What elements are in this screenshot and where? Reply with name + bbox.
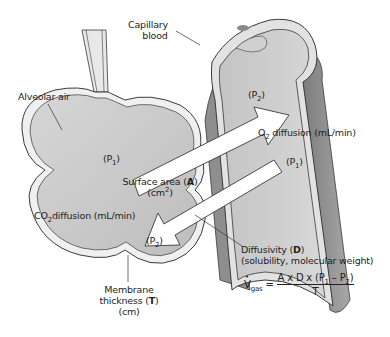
label-line: blood	[128, 30, 167, 41]
label-text: (cm)	[118, 306, 139, 317]
fick-equation: Vgas = A x D x (P1 – P2) T	[244, 272, 354, 297]
label-text: )	[169, 187, 173, 198]
label-text: (P	[286, 156, 295, 167]
label-text: (P	[146, 235, 155, 246]
capillary-leader-line	[176, 31, 200, 45]
equation-sub: gas	[251, 285, 263, 293]
label-text: (solubility, molecular weight)	[241, 255, 373, 266]
label-text: )	[194, 176, 198, 187]
airway	[82, 30, 108, 92]
o2-p1-label: (P1)	[103, 153, 120, 164]
equation-equals: =	[262, 279, 276, 290]
equation-denominator: T	[277, 285, 355, 297]
label-text: (P	[248, 89, 257, 100]
equation-numerator: A x D x (P1 – P2)	[277, 272, 355, 285]
label-text: )	[261, 89, 265, 100]
label-text: )	[159, 235, 163, 246]
label-line: Capillary	[128, 19, 168, 30]
nucleus-icon	[237, 25, 249, 31]
label-text: CO	[34, 210, 48, 221]
label-text: (cm	[147, 187, 165, 198]
o2-diffusion-label: O2 diffusion (mL/min)	[258, 127, 356, 138]
label-text: )	[155, 295, 159, 306]
equation-text: )	[350, 272, 354, 283]
diffusivity-label: Diffusivity (D) (solubility, molecular w…	[241, 244, 373, 266]
membrane-thickness-label: Membrane thickness (T) (cm)	[96, 284, 162, 317]
label-text: thickness (	[99, 295, 148, 306]
label-bold: A	[187, 176, 194, 187]
equation-text: – P	[329, 272, 346, 283]
o2-p2-label: (P2)	[248, 89, 265, 100]
co2-p1-label: (P1)	[286, 156, 303, 167]
equation-fraction: A x D x (P1 – P2) T	[277, 272, 355, 297]
equation-v: V	[244, 279, 251, 290]
equation-text: A x D x (P	[278, 272, 325, 283]
capillary-blood-label: Capillary blood	[128, 19, 168, 41]
label-text: )	[116, 153, 120, 164]
co2-p2-label: (P2)	[146, 235, 163, 246]
co2-diffusion-label: CO2diffusion (mL/min)	[34, 210, 135, 221]
label-text: Membrane	[104, 284, 153, 295]
surface-area-label: Surface area (A) (cm2)	[110, 176, 210, 198]
label-text: )	[301, 244, 305, 255]
label-text: Diffusivity (	[241, 244, 293, 255]
label-text: (P	[103, 153, 112, 164]
label-text: Surface area (	[123, 176, 187, 187]
label-bold: D	[293, 244, 301, 255]
label-text: diffusion (mL/min)	[52, 210, 135, 221]
alveolar-air-label: Alveolar air	[18, 91, 70, 102]
label-text: diffusion (mL/min)	[270, 127, 356, 138]
label-text: )	[299, 156, 303, 167]
